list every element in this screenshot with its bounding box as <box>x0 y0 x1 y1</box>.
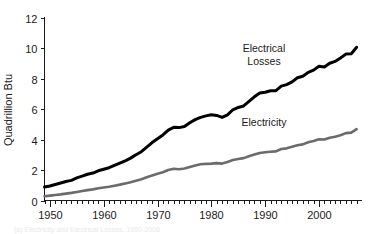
y-tick-label: 12 <box>25 13 37 25</box>
x-tick-label: 1970 <box>146 209 170 221</box>
x-tick-label: 1990 <box>253 209 277 221</box>
line-chart: 024681012 195019601970198019902000 Quadr… <box>0 0 369 234</box>
x-tick-label: 1980 <box>199 209 223 221</box>
x-tick-label: 1950 <box>38 209 62 221</box>
y-tick-label: 0 <box>31 196 37 208</box>
y-tick-label: 10 <box>25 43 37 55</box>
y-tick-label: 2 <box>31 165 37 177</box>
x-tick-label: 2000 <box>307 209 331 221</box>
y-tick-label: 6 <box>31 104 37 116</box>
y-tick-label: 4 <box>31 135 37 147</box>
y-axis-title: Quadrillion Btu <box>2 74 14 146</box>
x-tick-label: 1960 <box>92 209 116 221</box>
y-tick-label: 8 <box>31 74 37 86</box>
series-label-electricity: Electricity <box>242 116 288 128</box>
series-label-electrical-losses: ElectricalLosses <box>243 42 286 67</box>
chart-background <box>0 0 369 234</box>
figure-caption: (a) Electricity and Electrical Losses, 1… <box>14 225 354 234</box>
chart-figure: 024681012 195019601970198019902000 Quadr… <box>0 0 369 234</box>
